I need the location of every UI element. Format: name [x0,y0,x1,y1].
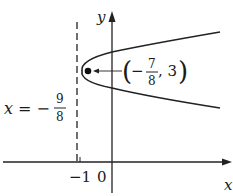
focus-pointer-arrow-icon [93,69,99,74]
tick-label-minus-one: −1 [69,168,91,186]
y-axis-label: y [96,8,106,26]
focus-label: ( − 7 8 , 3 ) [122,56,188,88]
focus-label-rest: , 3 [158,62,177,80]
focus-label-numerator: 7 [148,57,156,71]
tick-label-minus-one-digit: 1 [82,168,92,186]
focus-point [85,68,92,75]
y-axis [109,11,116,193]
diagram-canvas: y x −1 0 x = − 9 8 ( − 7 8 , 3 ) [0,0,233,196]
directrix-label: x = − 9 8 [4,92,66,124]
directrix-label-x: x [4,99,13,118]
x-axis-arrow-icon [222,159,232,166]
directrix-label-eq: = − [18,99,50,118]
parabola-diagram: y x −1 0 x = − 9 8 ( − 7 8 , 3 ) [0,0,233,196]
x-axis [3,159,232,166]
focus-label-minus: − [131,62,144,80]
y-axis-arrow-icon [109,11,116,22]
focus-label-close-paren: ) [178,56,188,86]
focus-label-denominator: 8 [148,74,156,88]
directrix-label-numerator: 9 [56,92,64,106]
origin-label: 0 [97,168,107,186]
x-axis-label: x [224,176,233,194]
directrix-label-denominator: 8 [56,110,64,124]
